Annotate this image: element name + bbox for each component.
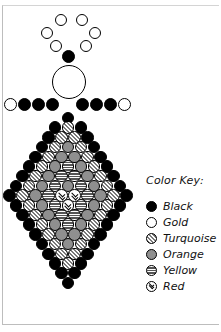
color-key-title: Color Key:	[146, 174, 204, 187]
halo-bead	[89, 27, 101, 39]
arm-bead	[32, 98, 45, 111]
head-bead	[52, 65, 86, 99]
orange-bead-icon	[146, 249, 157, 260]
black-bead-icon	[146, 201, 157, 212]
arm-bead	[104, 98, 117, 111]
key-label: Gold	[163, 216, 188, 229]
key-item-black: Black	[146, 199, 193, 213]
key-label: Yellow	[163, 264, 197, 277]
key-label: Red	[163, 280, 184, 293]
key-label: Orange	[163, 248, 204, 261]
arm-bead	[18, 98, 31, 111]
red-bead-icon	[146, 281, 157, 292]
key-item-orange: Orange	[146, 247, 204, 261]
yellow-bead-icon	[146, 265, 157, 276]
arm-bead	[4, 98, 17, 111]
key-item-yellow: Yellow	[146, 263, 197, 277]
halo-bead	[41, 27, 53, 39]
arm-bead	[90, 98, 103, 111]
turquoise-bead-icon	[146, 233, 157, 244]
gold-bead-icon	[146, 217, 157, 228]
key-item-red: Red	[146, 279, 184, 293]
key-label: Turquoise	[163, 232, 216, 245]
key-label: Black	[163, 200, 193, 213]
neck-bead	[62, 50, 75, 63]
halo-bead	[76, 14, 88, 26]
key-item-turquoise: Turquoise	[146, 231, 216, 245]
halo-bead	[80, 40, 92, 52]
halo-bead	[50, 40, 62, 52]
arm-bead	[118, 98, 131, 111]
halo-bead	[55, 14, 67, 26]
key-item-gold: Gold	[146, 215, 188, 229]
arm-bead	[76, 98, 89, 111]
arm-bead	[46, 98, 59, 111]
